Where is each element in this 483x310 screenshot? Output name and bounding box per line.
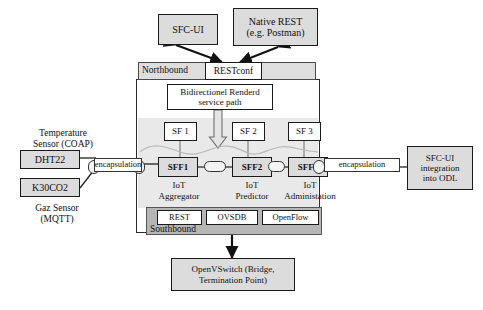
- rest-protocol-label: REST: [169, 213, 190, 223]
- sff1-role-line1: IoT: [150, 180, 208, 191]
- sff3-role-line2: Administation: [276, 191, 344, 202]
- sf2-label: SF 2: [240, 126, 257, 136]
- link-capsule-icon-sff1-sff2: [204, 161, 226, 172]
- temperature-sensor-caption: Temperature Sensor (COAP): [8, 128, 118, 150]
- sff2-role-line1: IoT: [224, 180, 280, 191]
- dht22-box[interactable]: DHT22: [20, 150, 80, 169]
- sff2-box[interactable]: SFF2: [232, 157, 272, 177]
- sf1-box[interactable]: SF 1: [164, 122, 197, 141]
- sff2-label: SFF2: [242, 162, 263, 172]
- encapsulation-left-box: encapsulation: [94, 158, 142, 172]
- openvswitch-box[interactable]: OpenVSwitch (Bridge, Termination Point): [171, 258, 295, 291]
- sff1-box[interactable]: SFF1: [158, 157, 198, 177]
- sff2-role-line2: Predictor: [224, 191, 280, 202]
- k30co2-box[interactable]: K30CO2: [20, 178, 80, 197]
- sff3-role-caption: IoT Administation: [276, 180, 344, 201]
- sf3-box[interactable]: SF 3: [288, 122, 321, 141]
- rendered-path-curve: [140, 146, 318, 154]
- odl-line2: integration: [421, 163, 460, 173]
- openvswitch-line2: Termination Point): [199, 275, 267, 285]
- rendered-service-path-box: Bidirectionel Renderd service path: [167, 84, 273, 110]
- gas-caption-line1: Gaz Sensor: [12, 203, 102, 214]
- odl-line1: SFC-UI: [426, 153, 455, 163]
- temperature-caption-line1: Temperature: [8, 128, 118, 139]
- southbound-label: Southbound: [150, 224, 196, 234]
- sff1-label: SFF1: [168, 162, 189, 172]
- openvswitch-line1: OpenVSwitch (Bridge,: [192, 264, 275, 274]
- native-rest-label-line2: (e.g. Postman): [246, 27, 304, 38]
- sff1-role-line2: Aggregator: [150, 191, 208, 202]
- arrow-servicepath-down: [210, 110, 227, 148]
- odl-line3: into ODL: [423, 173, 458, 183]
- encapsulation-left-label: encapsulation: [95, 160, 142, 170]
- sff2-role-caption: IoT Predictor: [224, 180, 280, 201]
- encapsulation-right-label: encapsulation: [339, 160, 386, 170]
- arrow-nativerest-to-restconf: [240, 47, 278, 62]
- service-path-line2: service path: [198, 97, 241, 107]
- sf2-box[interactable]: SF 2: [232, 122, 265, 141]
- sff3-role-line1: IoT: [276, 180, 344, 191]
- gas-sensor-caption: Gaz Sensor (MQTT): [12, 203, 102, 225]
- northbound-label: Northbound: [142, 65, 188, 75]
- restconf-box[interactable]: RESTconf: [205, 62, 262, 80]
- native-rest-client-box[interactable]: Native REST (e.g. Postman): [233, 8, 318, 46]
- openflow-protocol-box[interactable]: OpenFlow: [262, 210, 319, 225]
- restconf-label: RESTconf: [214, 66, 253, 77]
- ovsdb-protocol-box[interactable]: OVSDB: [206, 210, 258, 225]
- temperature-caption-line2: Sensor (COAP): [8, 139, 118, 150]
- diagram-canvas: SFC-UI Native REST (e.g. Postman) Northb…: [0, 0, 483, 310]
- sf3-label: SF 3: [296, 126, 313, 136]
- sfc-ui-client-box[interactable]: SFC-UI: [158, 14, 218, 45]
- service-path-line1: Bidirectionel Renderd: [180, 87, 260, 97]
- sfc-ui-client-label: SFC-UI: [172, 24, 204, 35]
- k30co2-label: K30CO2: [32, 182, 68, 193]
- openflow-protocol-label: OpenFlow: [273, 213, 309, 223]
- ovsdb-protocol-label: OVSDB: [218, 213, 247, 223]
- rest-protocol-box[interactable]: REST: [157, 210, 202, 225]
- sff1-role-caption: IoT Aggregator: [150, 180, 208, 201]
- odl-integration-box[interactable]: SFC-UI integration into ODL: [407, 146, 473, 190]
- encapsulation-right-box: encapsulation: [324, 158, 400, 172]
- arrow-sfcui-to-restconf: [176, 45, 222, 62]
- native-rest-label-line1: Native REST: [249, 16, 303, 27]
- link-capsule-icon-sff2-sff3: [268, 161, 285, 172]
- dht22-label: DHT22: [35, 154, 66, 165]
- gas-caption-line2: (MQTT): [12, 214, 102, 225]
- sf1-label: SF 1: [172, 126, 189, 136]
